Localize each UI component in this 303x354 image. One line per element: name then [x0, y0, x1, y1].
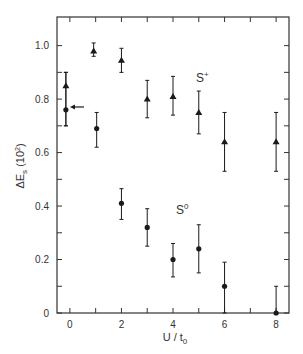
x-tick-label: 0 [67, 319, 73, 330]
x-tick-label: 4 [170, 319, 176, 330]
circle-marker [145, 225, 150, 230]
y-axis-label: ΔEs (102) [14, 143, 29, 188]
circle-marker [222, 284, 227, 289]
triangle-marker [221, 138, 228, 144]
circle-marker [119, 201, 124, 206]
triangle-marker [170, 93, 177, 99]
x-tick-label: 6 [222, 319, 228, 330]
circle-marker [63, 107, 68, 112]
x-axis-label: U / t0 [163, 331, 188, 346]
circle-marker [274, 310, 279, 315]
x-tick-label: 2 [119, 319, 125, 330]
triangle-marker [195, 109, 202, 115]
y-tick-label: 0.8 [35, 94, 49, 105]
y-tick-label: 0 [43, 308, 49, 319]
y-tick-label: 0.6 [35, 147, 49, 158]
data-series [62, 43, 279, 316]
y-tick-label: 0.4 [35, 201, 49, 212]
series-s0 [63, 72, 278, 315]
triangle-marker [118, 57, 125, 63]
triangle-marker [273, 138, 280, 144]
y-tick-label: 1.0 [35, 40, 49, 51]
series-splus [62, 43, 279, 171]
circle-marker [196, 246, 201, 251]
x-tick-label: 8 [273, 319, 279, 330]
circle-marker [94, 126, 99, 131]
axis-tick-labels: 0246800.20.40.60.81.0 [35, 40, 279, 330]
arrow-left-icon [70, 105, 84, 110]
triangle-marker [90, 47, 97, 53]
chart: 0246800.20.40.60.81.0 S+ S0 U / t0 ΔEs (… [0, 0, 303, 354]
series-label-szero: S0 [176, 202, 189, 217]
y-tick-label: 0.2 [35, 254, 49, 265]
circle-marker [170, 257, 175, 262]
triangle-marker [144, 96, 151, 102]
series-label-splus: S+ [196, 70, 209, 85]
